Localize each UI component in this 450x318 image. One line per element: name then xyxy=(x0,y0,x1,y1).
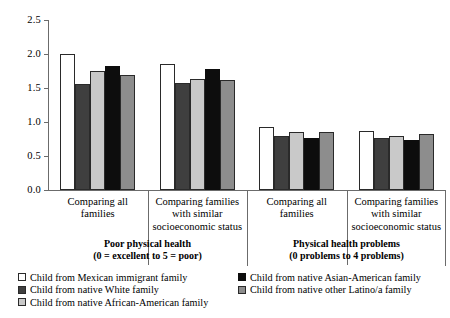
bar-chart-figure: 2.52.01.51.00.50.0 Comparing allfamilies… xyxy=(0,0,450,318)
legend-label: Child from native White family xyxy=(30,284,159,295)
subgroup-label-line: Comparing all xyxy=(48,196,148,208)
bars-layer xyxy=(48,20,446,190)
legend-label: Child from native other Latino/a family xyxy=(250,284,412,295)
subgroup-label-line: Comparing families xyxy=(347,196,447,208)
legend-swatch-icon xyxy=(238,286,246,294)
subgroup-label-line: families xyxy=(247,208,347,220)
group-scale-note: (0 problems to 4 problems) xyxy=(247,250,446,262)
bar xyxy=(105,66,120,190)
bar xyxy=(60,54,75,190)
legend-item: Child from native White family xyxy=(18,284,208,297)
bar xyxy=(274,136,289,190)
group-divider xyxy=(445,191,446,266)
bar xyxy=(205,69,220,190)
bar xyxy=(175,83,190,190)
subgroup-label-line: families xyxy=(48,208,148,220)
subgroup-label-line: with similar xyxy=(347,208,447,220)
group-label: Poor physical health(0 = excellent to 5 … xyxy=(48,238,247,268)
y-axis-tick-label: 1.0 xyxy=(27,117,41,127)
bar xyxy=(160,64,175,190)
y-axis-tick-label: 0.5 xyxy=(27,151,41,161)
subgroup-label: Comparing familieswith similarsocioecono… xyxy=(347,191,447,237)
bar xyxy=(319,132,334,190)
group-label: Physical health problems(0 problems to 4… xyxy=(247,238,446,268)
legend-item: Child from Mexican immigrant family xyxy=(18,271,208,284)
bar xyxy=(289,132,304,190)
subgroup-label: Comparing familieswith similarsocioecono… xyxy=(148,191,248,237)
bar xyxy=(90,71,105,190)
legend-swatch-icon xyxy=(238,273,246,281)
legend-column-right: Child from native Asian-American familyC… xyxy=(238,271,421,296)
chart-legend: Child from Mexican immigrant familyChild… xyxy=(0,271,450,315)
y-axis-tick-label: 2.5 xyxy=(27,15,41,25)
bar xyxy=(259,127,274,190)
legend-swatch-icon xyxy=(18,286,26,294)
bar xyxy=(389,136,404,190)
y-axis-tick-label: 0.0 xyxy=(27,185,41,195)
bar xyxy=(404,140,419,190)
subgroup-label-line: socioeconomic status xyxy=(148,221,248,233)
y-axis-tick-label: 1.5 xyxy=(27,83,41,93)
subgroup-label: Comparing allfamilies xyxy=(247,191,347,237)
subgroup-label-line: Comparing all xyxy=(247,196,347,208)
bar xyxy=(220,80,235,190)
bar xyxy=(419,134,434,190)
subgroup-label-line: with similar xyxy=(148,208,248,220)
bar xyxy=(120,75,135,190)
group-scale-note: (0 = excellent to 5 = poor) xyxy=(48,250,247,262)
subgroup-label-line: Comparing families xyxy=(148,196,248,208)
legend-label: Child from Mexican immigrant family xyxy=(30,272,187,283)
legend-label: Child from native African-American famil… xyxy=(30,297,208,308)
y-axis-tick-label: 2.0 xyxy=(27,49,41,59)
bar xyxy=(304,138,319,190)
plot-area: 2.52.01.51.00.50.0 Comparing allfamilies… xyxy=(0,0,450,196)
bar xyxy=(75,84,90,190)
group-label-row: Poor physical health(0 = excellent to 5 … xyxy=(48,238,446,268)
legend-item: Child from native African-American famil… xyxy=(18,296,208,309)
bar xyxy=(190,79,205,190)
legend-item: Child from native other Latino/a family xyxy=(238,284,421,297)
subgroup-label: Comparing allfamilies xyxy=(48,191,148,237)
legend-label: Child from native Asian-American family xyxy=(250,272,421,283)
bar xyxy=(359,131,374,190)
group-title: Poor physical health xyxy=(48,238,247,250)
group-title: Physical health problems xyxy=(247,238,446,250)
bar xyxy=(374,138,389,190)
legend-item: Child from native Asian-American family xyxy=(238,271,421,284)
subgroup-label-line: socioeconomic status xyxy=(347,221,447,233)
legend-swatch-icon xyxy=(18,273,26,281)
legend-swatch-icon xyxy=(18,298,26,306)
legend-column-left: Child from Mexican immigrant familyChild… xyxy=(18,271,208,309)
